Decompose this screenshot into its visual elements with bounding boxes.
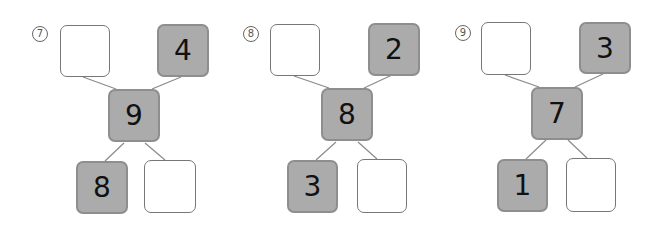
answer-box-top-left[interactable] xyxy=(481,22,531,75)
problem-number-label: 9 xyxy=(455,25,471,41)
number-box-bottom-left: 3 xyxy=(287,160,338,213)
problem-number-label: 7 xyxy=(32,26,48,42)
answer-box-top-left[interactable] xyxy=(270,24,320,76)
number-box-middle: 9 xyxy=(108,89,160,142)
number-box-middle: 7 xyxy=(531,87,583,140)
number-box-top-right: 3 xyxy=(579,22,631,74)
problem-number-label: 8 xyxy=(243,26,259,42)
number-box-bottom-left: 8 xyxy=(76,161,128,214)
answer-box-top-left[interactable] xyxy=(60,25,110,77)
answer-box-bottom-right[interactable] xyxy=(566,158,616,212)
number-box-top-right: 2 xyxy=(368,23,420,76)
number-box-middle: 8 xyxy=(321,88,373,141)
number-box-bottom-left: 1 xyxy=(497,159,548,212)
answer-box-bottom-right[interactable] xyxy=(144,160,196,213)
answer-box-bottom-right[interactable] xyxy=(357,159,407,213)
number-box-top-right: 4 xyxy=(157,24,209,77)
